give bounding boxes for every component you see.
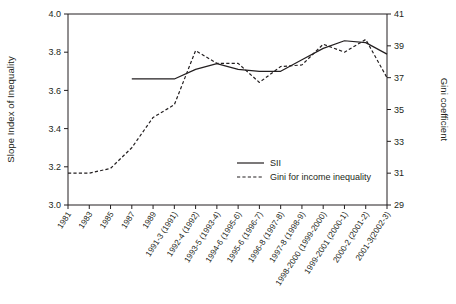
x-axis-tick-label: 1981 <box>56 210 74 231</box>
y-axis-right-tick-label: 29 <box>394 200 404 210</box>
line-chart: 3.03.23.43.63.84.02931333537394119811983… <box>0 0 456 304</box>
x-axis-tick-label: 1983 <box>77 210 95 231</box>
legend-label-1: SII <box>270 158 281 168</box>
y-axis-right-tick-label: 35 <box>394 105 404 115</box>
legend-label-2: Gini for income inequality <box>270 172 372 182</box>
y-axis-left-title: Slope Index of Inequality <box>5 56 16 163</box>
y-axis-left-tick-label: 3.0 <box>48 200 61 210</box>
y-axis-right-tick-label: 31 <box>394 168 404 178</box>
y-axis-left-tick-label: 3.2 <box>48 162 61 172</box>
chart-container: 3.03.23.43.63.84.02931333537394119811983… <box>0 0 456 304</box>
series-line-1 <box>132 41 387 79</box>
x-axis-tick-label: 1985 <box>98 210 116 231</box>
series-line-2 <box>68 39 387 173</box>
y-axis-left-tick-label: 3.4 <box>48 124 61 134</box>
y-axis-left-tick-label: 4.0 <box>48 9 61 19</box>
y-axis-right-tick-label: 39 <box>394 41 404 51</box>
x-axis-tick-label: 1989 <box>141 210 159 231</box>
x-axis-tick-label: 1987 <box>120 210 138 231</box>
y-axis-right-title: Gini coefficient <box>439 78 450 142</box>
y-axis-right-tick-label: 37 <box>394 73 404 83</box>
y-axis-left-tick-label: 3.6 <box>48 86 61 96</box>
y-axis-right-tick-label: 41 <box>394 9 404 19</box>
y-axis-right-tick-label: 33 <box>394 137 404 147</box>
y-axis-left-tick-label: 3.8 <box>48 47 61 57</box>
